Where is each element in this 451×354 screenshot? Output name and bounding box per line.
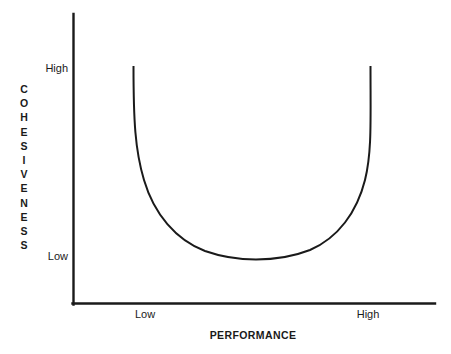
y-axis-title-char: H xyxy=(14,110,34,124)
y-axis-title-char: V xyxy=(14,167,34,181)
x-axis-tick-low: Low xyxy=(110,309,180,320)
data-curve-u-shape xyxy=(134,66,371,260)
y-axis-tick-low: Low xyxy=(48,251,68,262)
y-axis-title-char: C xyxy=(14,82,34,96)
y-axis-tick-high: High xyxy=(45,63,68,74)
y-axis-title-char: E xyxy=(14,125,34,139)
y-axis-title-char: N xyxy=(14,196,34,210)
y-axis-title-char: S xyxy=(14,224,34,238)
y-axis-title: COHESIVENESS xyxy=(14,82,34,252)
x-axis-title: PERFORMANCE xyxy=(153,330,353,341)
x-axis-tick-high: High xyxy=(333,309,403,320)
y-axis-title-char: O xyxy=(14,96,34,110)
y-axis-title-char: S xyxy=(14,238,34,252)
y-axis-title-char: E xyxy=(14,181,34,195)
y-axis-title-char: S xyxy=(14,139,34,153)
chart-figure: High Low Low High PERFORMANCE COHESIVENE… xyxy=(0,0,451,354)
y-axis-title-char: I xyxy=(14,153,34,167)
chart-canvas xyxy=(0,0,451,354)
y-axis-title-char: E xyxy=(14,210,34,224)
